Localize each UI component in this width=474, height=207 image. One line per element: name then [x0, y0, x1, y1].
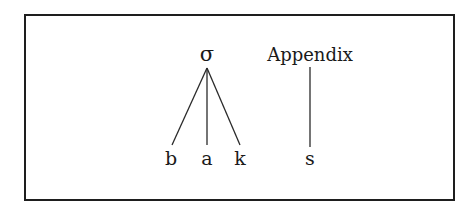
leaf-b: b [165, 149, 177, 168]
tree-branches [0, 0, 474, 207]
branch-sigma-b [172, 68, 207, 145]
sigma-node: σ [200, 44, 214, 65]
leaf-s: s [305, 149, 315, 168]
leaf-k: k [234, 149, 246, 168]
appendix-node: Appendix [267, 46, 353, 64]
branch-sigma-k [207, 68, 240, 145]
leaf-a: a [201, 149, 212, 168]
